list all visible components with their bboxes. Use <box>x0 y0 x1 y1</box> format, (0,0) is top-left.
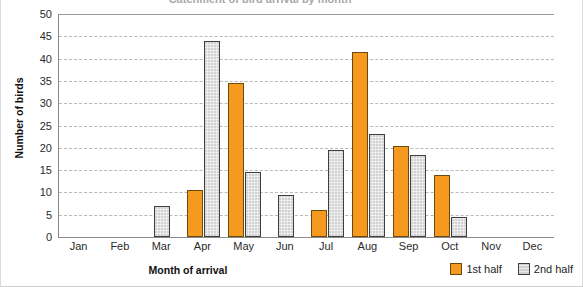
x-tick-label: Sep <box>388 240 429 252</box>
bar-second-half[interactable] <box>278 195 294 237</box>
bar-second-half[interactable] <box>245 172 261 237</box>
x-tick-label: Feb <box>99 240 140 252</box>
legend-label-2nd-half: 2nd half <box>534 263 573 275</box>
y-tick-label: 45 <box>8 31 52 42</box>
y-tick-label: 20 <box>8 142 52 153</box>
x-tick-label: Mar <box>141 240 182 252</box>
bar-group <box>183 14 224 237</box>
x-tick-label: Apr <box>182 240 223 252</box>
orange-swatch-icon <box>450 263 462 275</box>
y-tick-label: 35 <box>8 75 52 86</box>
legend-label-1st-half: 1st half <box>466 263 501 275</box>
bar-series-container <box>59 14 554 237</box>
bar-group <box>100 14 141 237</box>
legend-item-2nd-half[interactable]: 2nd half <box>518 263 573 275</box>
bar-second-half[interactable] <box>369 134 385 237</box>
x-tick-label: May <box>223 240 264 252</box>
y-tick-label: 25 <box>8 120 52 131</box>
bar-second-half[interactable] <box>204 41 220 237</box>
y-tick-label: 15 <box>8 165 52 176</box>
x-tick-label: Aug <box>347 240 388 252</box>
y-tick-label: 10 <box>8 187 52 198</box>
bar-first-half[interactable] <box>228 83 244 237</box>
bar-second-half[interactable] <box>154 206 170 237</box>
bar-group <box>430 14 471 237</box>
x-tick-label: Jun <box>264 240 305 252</box>
bar-first-half[interactable] <box>393 146 409 237</box>
chart-title: Catchment of bird arrival by month <box>70 0 450 7</box>
gray-swatch-icon <box>518 263 530 275</box>
bar-group <box>142 14 183 237</box>
bar-second-half[interactable] <box>328 150 344 237</box>
figure-left-border <box>0 0 1 287</box>
bar-group <box>59 14 100 237</box>
legend-item-1st-half[interactable]: 1st half <box>450 263 501 275</box>
bar-group <box>389 14 430 237</box>
x-tick-label: Jul <box>306 240 347 252</box>
bar-group <box>472 14 513 237</box>
bar-first-half[interactable] <box>187 190 203 237</box>
bar-group <box>265 14 306 237</box>
bar-first-half[interactable] <box>352 52 368 237</box>
x-tick-label: Nov <box>471 240 512 252</box>
bar-group <box>224 14 265 237</box>
y-tick-label: 50 <box>8 9 52 20</box>
x-tick-label: Oct <box>429 240 470 252</box>
y-tick-label: 40 <box>8 53 52 64</box>
x-axis-title: Month of arrival <box>58 264 318 276</box>
x-tick-label: Dec <box>512 240 553 252</box>
bird-arrival-bar-chart: Catchment of bird arrival by month Numbe… <box>0 0 583 287</box>
bar-second-half[interactable] <box>451 217 467 237</box>
y-tick-label: 0 <box>8 232 52 243</box>
bar-first-half[interactable] <box>311 210 327 237</box>
chart-legend: 1st half 2nd half <box>450 263 573 275</box>
bar-first-half[interactable] <box>434 175 450 237</box>
bar-second-half[interactable] <box>410 155 426 238</box>
x-axis-tick-labels: JanFebMarAprMayJunJulAugSepOctNovDec <box>58 240 553 258</box>
y-tick-label: 30 <box>8 98 52 109</box>
x-tick-label: Jan <box>58 240 99 252</box>
plot-area <box>58 14 554 238</box>
y-axis-tick-labels: 50454035302520151050 <box>8 14 52 237</box>
y-tick-label: 5 <box>8 209 52 220</box>
bar-group <box>307 14 348 237</box>
bar-group <box>513 14 554 237</box>
bar-group <box>348 14 389 237</box>
